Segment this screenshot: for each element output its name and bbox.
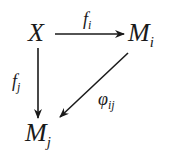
- node-mi-sub: i: [150, 34, 154, 50]
- node-x: X: [28, 20, 44, 46]
- node-mj-sub: j: [47, 134, 51, 150]
- arrow-phi: [60, 53, 128, 117]
- node-mj: Mj: [25, 120, 51, 146]
- label-phi-sub: ij: [108, 98, 115, 112]
- label-fi: fi: [83, 10, 91, 28]
- label-fj: fj: [12, 72, 20, 90]
- label-fj-sub: j: [17, 80, 20, 94]
- label-phi: φij: [98, 90, 115, 108]
- node-mj-base: M: [25, 118, 47, 147]
- node-x-label: X: [28, 18, 44, 47]
- node-mi-base: M: [128, 18, 150, 47]
- label-fi-sub: i: [88, 18, 91, 32]
- label-phi-base: φ: [98, 89, 108, 109]
- node-mi: Mi: [128, 20, 154, 46]
